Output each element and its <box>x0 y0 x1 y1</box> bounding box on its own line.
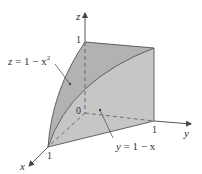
parabolic-cylinder-label: z = 1 − x2 <box>7 54 51 67</box>
y-axis-label: y <box>183 127 189 139</box>
parabolic-equation: 1 − x <box>24 55 47 67</box>
z-axis-label: z <box>75 10 81 22</box>
y-tick-label: 1 <box>152 124 157 135</box>
x-axis <box>29 147 48 166</box>
plane-equation: 1 − x <box>133 140 156 152</box>
y-axis <box>154 121 191 124</box>
origin-label: 0 <box>76 105 81 116</box>
x-axis-label: x <box>19 160 25 172</box>
x-tick-label: 1 <box>47 150 52 161</box>
plane-label: y = 1 − x <box>115 140 156 152</box>
z-tick-label: 1 <box>76 34 81 45</box>
parabolic-exponent: 2 <box>47 54 51 62</box>
solid-region-diagram: z y x 1 1 1 0 z = 1 − x2 y = 1 − x <box>0 0 202 174</box>
